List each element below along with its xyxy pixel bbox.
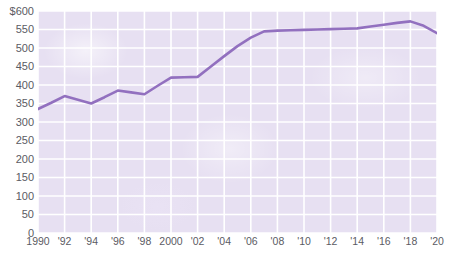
y-tick-label: 150	[16, 172, 34, 183]
y-tick-label: 300	[16, 117, 34, 128]
x-tick-label: '12	[324, 236, 338, 247]
x-tick-label: '92	[58, 236, 72, 247]
x-tick-label: '08	[271, 236, 285, 247]
x-tick-label: '04	[217, 236, 231, 247]
y-tick-label: 400	[16, 80, 34, 91]
y-tick-label: $600	[10, 6, 34, 17]
plot-area	[38, 11, 437, 233]
y-axis-tick-labels: 050100150200250300350400450500550$600	[0, 0, 34, 260]
x-tick-label: 2000	[159, 236, 182, 247]
data-line-series	[38, 11, 437, 233]
x-tick-label: '94	[84, 236, 98, 247]
y-tick-label: 250	[16, 135, 34, 146]
x-tick-label: '96	[111, 236, 125, 247]
x-tick-label: '20	[430, 236, 444, 247]
x-tick-label: '98	[138, 236, 152, 247]
x-tick-label: '06	[244, 236, 258, 247]
y-tick-label: 200	[16, 154, 34, 165]
x-tick-label: '16	[377, 236, 391, 247]
x-tick-label: '02	[191, 236, 205, 247]
x-tick-label: '10	[297, 236, 311, 247]
line-chart: 050100150200250300350400450500550$600 19…	[0, 0, 450, 260]
x-axis-tick-labels: 1990'92'94'96'982000'02'04'06'08'10'12'1…	[0, 236, 450, 256]
x-tick-label: '14	[350, 236, 364, 247]
x-tick-label: '18	[404, 236, 418, 247]
y-tick-label: 100	[16, 191, 34, 202]
y-tick-label: 500	[16, 43, 34, 54]
y-tick-label: 350	[16, 98, 34, 109]
y-tick-label: 450	[16, 61, 34, 72]
y-tick-label: 50	[22, 209, 34, 220]
y-tick-label: 550	[16, 24, 34, 35]
x-tick-label: 1990	[26, 236, 49, 247]
